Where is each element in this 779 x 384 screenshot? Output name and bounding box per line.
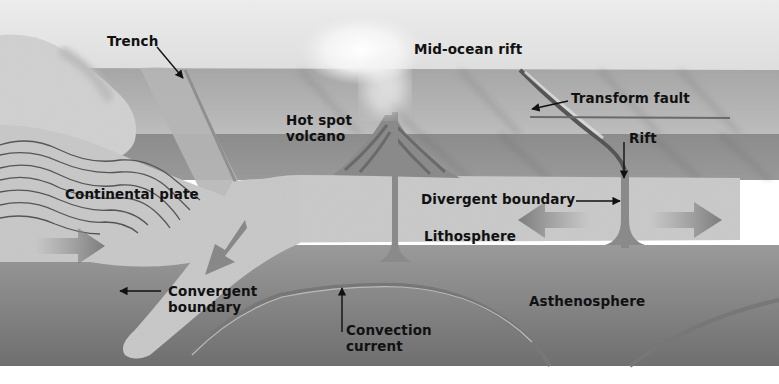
label-rift: Rift [629,130,657,146]
label-lithosphere: Lithosphere [424,228,516,244]
label-convection-current-line1: Convection [346,322,432,338]
label-asthenosphere: Asthenosphere [529,293,645,309]
plate-tectonics-diagram: Trench Mid-ocean rift Transform fault Ho… [0,0,779,384]
volcano-conduit [392,112,398,260]
label-convection-current-line2: current [346,338,403,354]
label-transform-fault: Transform fault [571,90,690,106]
label-convergent-boundary-line1: Convergent [168,283,257,299]
label-hot-spot-volcano-line2: volcano [286,128,345,144]
plume-column [363,55,407,115]
bottom-margin [0,366,779,384]
label-convergent-boundary-line2: boundary [168,299,241,315]
label-continental-plate: Continental plate [65,186,199,202]
transform-fault-line [530,117,730,118]
label-trench: Trench [107,33,158,49]
label-hot-spot-volcano-line1: Hot spot [286,112,352,128]
label-divergent-boundary: Divergent boundary [421,191,575,207]
label-mid-ocean-rift: Mid-ocean rift [414,41,522,57]
